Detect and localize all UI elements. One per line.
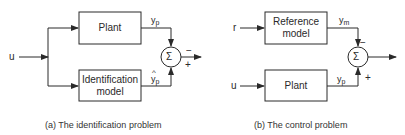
b-plus-sign: + bbox=[365, 72, 371, 83]
b-caption: (b) The control problem bbox=[254, 120, 347, 130]
b-plant-label: Plant bbox=[265, 70, 327, 101]
b-u-label: u bbox=[231, 80, 237, 91]
b-r-label: r bbox=[233, 22, 236, 33]
b-ym-label: ym bbox=[339, 15, 349, 26]
b-minus-sign: − bbox=[360, 37, 366, 48]
b-ref-output-line bbox=[327, 28, 358, 46]
a-plus-sign: + bbox=[185, 59, 191, 70]
a-caption: (a) The identification problem bbox=[45, 120, 161, 130]
b-reference-model-label: Reference model bbox=[265, 12, 327, 44]
a-plant-output-line bbox=[141, 28, 171, 46]
a-input-label: u bbox=[9, 51, 15, 62]
b-yp-label: yp bbox=[337, 74, 345, 85]
b-sigma-symbol: Σ bbox=[353, 51, 359, 62]
a-yp-hat-label: yp bbox=[151, 74, 159, 85]
a-model-label: Identification model bbox=[79, 70, 141, 101]
a-sigma-symbol: Σ bbox=[166, 51, 172, 62]
a-plant-label: Plant bbox=[79, 12, 141, 44]
a-minus-sign: − bbox=[186, 45, 192, 56]
a-yp-label: yp bbox=[151, 15, 159, 26]
